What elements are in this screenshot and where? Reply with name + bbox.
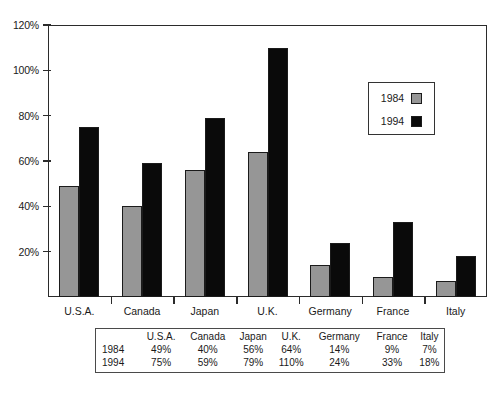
- bar-1994-USA: [79, 127, 99, 297]
- black-swatch-icon: [411, 116, 422, 127]
- bar-1984-USA: [59, 186, 79, 297]
- table-header-row: U.S.A.CanadaJapanU.K.GermanyFranceItaly: [96, 329, 444, 343]
- table-cell: 18%: [415, 356, 444, 369]
- x-tick-label-France: France: [377, 305, 410, 317]
- table-column-header: France: [369, 329, 414, 343]
- bar-1984-Japan: [185, 170, 205, 297]
- bar-1984-UK: [248, 152, 268, 297]
- x-tick-mark: [111, 297, 113, 304]
- y-tick-label: 40%: [19, 201, 39, 211]
- y-tick-mark: [43, 24, 51, 26]
- y-tick-label: 120%: [13, 20, 39, 30]
- x-tick-mark: [362, 297, 364, 304]
- table-column-header: Canada: [182, 329, 233, 343]
- table-cell: 110%: [273, 356, 309, 369]
- y-tick-mark: [43, 160, 51, 162]
- chart-legend: 1984 1994: [368, 82, 435, 135]
- bar-1984-France: [373, 277, 393, 297]
- y-tick-label: 60%: [19, 156, 39, 166]
- gray-swatch-icon: [411, 93, 422, 104]
- bar-1994-Canada: [142, 163, 162, 297]
- table-cell: 24%: [309, 356, 369, 369]
- legend-label-1984: 1984: [381, 93, 404, 104]
- table-cell: 9%: [369, 343, 414, 356]
- bar-1984-Germany: [310, 265, 330, 297]
- data-table: U.S.A.CanadaJapanU.K.GermanyFranceItaly …: [96, 329, 444, 369]
- table-row-header: 1984: [96, 343, 140, 356]
- table-cell: 49%: [140, 343, 182, 356]
- y-tick-label: 80%: [19, 111, 39, 121]
- data-table-box: U.S.A.CanadaJapanU.K.GermanyFranceItaly …: [95, 328, 445, 373]
- y-tick-mark: [43, 70, 51, 72]
- x-tick-label-USA: U.S.A.: [64, 305, 94, 317]
- x-tick-mark: [299, 297, 301, 304]
- table-body: 198449%40%56%64%14%9%7%199475%59%79%110%…: [96, 343, 444, 369]
- table-column-header: Italy: [415, 329, 444, 343]
- y-tick-mark: [43, 115, 51, 117]
- bar-1994-Italy: [456, 256, 476, 297]
- x-tick-mark: [173, 297, 175, 304]
- table-column-header: U.S.A.: [140, 329, 182, 343]
- x-tick-mark: [236, 297, 238, 304]
- table-column-header: Japan: [233, 329, 273, 343]
- table-row: 199475%59%79%110%24%33%18%: [96, 356, 444, 369]
- table-row: 198449%40%56%64%14%9%7%: [96, 343, 444, 356]
- x-tick-label-Italy: Italy: [446, 305, 465, 317]
- x-tick-label-Germany: Germany: [309, 305, 352, 317]
- bar-1994-UK: [268, 48, 288, 297]
- x-tick-label-Japan: Japan: [190, 305, 219, 317]
- table-cell: 33%: [369, 356, 414, 369]
- table-cell: 7%: [415, 343, 444, 356]
- table-cell: 14%: [309, 343, 369, 356]
- y-tick-label: 100%: [13, 65, 39, 75]
- x-tick-label-UK: U.K.: [257, 305, 277, 317]
- table-cell: 75%: [140, 356, 182, 369]
- table-cell: 40%: [182, 343, 233, 356]
- x-tick-mark: [424, 297, 426, 304]
- y-tick-label: 20%: [19, 247, 39, 257]
- table-column-header: U.K.: [273, 329, 309, 343]
- bar-chart-figure: 20%40%60%80%100%120% U.S.A.CanadaJapanU.…: [0, 0, 503, 393]
- legend-entry-1994: 1994: [369, 110, 434, 132]
- table-column-header: Germany: [309, 329, 369, 343]
- table-cell: 64%: [273, 343, 309, 356]
- bar-1994-France: [393, 222, 413, 297]
- bar-1994-Japan: [205, 118, 225, 297]
- table-cell: 79%: [233, 356, 273, 369]
- table-header: U.S.A.CanadaJapanU.K.GermanyFranceItaly: [96, 329, 444, 343]
- table-row-header: 1994: [96, 356, 140, 369]
- table-corner-cell: [96, 329, 140, 343]
- y-tick-mark: [43, 206, 51, 208]
- x-tick-label-Canada: Canada: [124, 305, 161, 317]
- legend-entry-1984: 1984: [369, 87, 434, 109]
- table-cell: 56%: [233, 343, 273, 356]
- legend-label-1994: 1994: [381, 116, 404, 127]
- bar-1984-Italy: [436, 281, 456, 297]
- bar-1994-Germany: [330, 243, 350, 297]
- table-cell: 59%: [182, 356, 233, 369]
- y-tick-mark: [43, 251, 51, 253]
- y-axis: 20%40%60%80%100%120%: [0, 0, 48, 393]
- bar-1984-Canada: [122, 206, 142, 297]
